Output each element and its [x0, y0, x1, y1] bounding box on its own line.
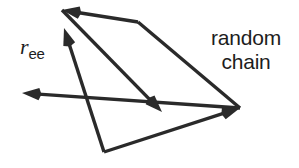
arrowhead-chain-segment-5	[221, 107, 240, 119]
end-to-end-vector-label: ree	[20, 35, 45, 63]
end-to-end-vector	[67, 37, 104, 152]
chain-segment-5	[104, 111, 231, 152]
ree-subscript: ee	[29, 45, 45, 62]
random-chain-label: randomchain	[196, 26, 296, 73]
random-chain-label-line2: chain	[196, 50, 296, 74]
ree-base-symbol: r	[20, 34, 29, 59]
arrowhead-chain-segment-4	[22, 88, 41, 100]
random-chain-figure: ree randomchain	[0, 0, 299, 168]
chain-segment-4	[31, 94, 240, 108]
random-chain-label-line1: random	[211, 26, 281, 49]
arrowhead-end-to-end-vector	[63, 28, 75, 47]
